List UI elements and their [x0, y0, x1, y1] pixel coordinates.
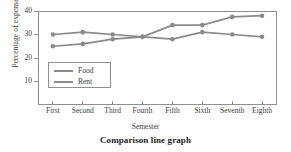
- y-tick-mark: [34, 81, 38, 82]
- x-tick-mark: [202, 101, 203, 105]
- legend-entry: Food: [49, 65, 110, 76]
- x-tick-label: First: [46, 106, 60, 116]
- x-tick-label: Fourth: [133, 106, 153, 116]
- x-axis-title: Semester: [0, 122, 291, 131]
- legend-label: Rent: [78, 77, 92, 86]
- y-tick-mark: [34, 34, 38, 35]
- legend: FoodRent: [48, 62, 111, 88]
- y-tick-label: 40: [14, 6, 32, 16]
- x-tick-label: Third: [104, 106, 121, 116]
- legend-swatch-icon: [54, 70, 73, 72]
- x-tick-mark: [232, 101, 233, 105]
- x-tick-mark: [142, 101, 143, 105]
- legend-entry: Rent: [49, 76, 110, 87]
- x-tick-label: Fifth: [165, 106, 180, 116]
- y-tick-label: 10: [14, 76, 32, 86]
- x-tick-label: Sixth: [194, 106, 210, 116]
- x-tick-mark: [82, 101, 83, 105]
- legend-label: Food: [78, 66, 93, 75]
- y-tick-mark: [34, 58, 38, 59]
- x-tick-mark: [52, 101, 53, 105]
- y-tick-mark: [34, 11, 38, 12]
- legend-swatch-icon: [54, 81, 73, 83]
- x-tick-mark: [112, 101, 113, 105]
- y-tick-label: 30: [14, 29, 32, 39]
- figure-caption: Comparison line graph: [0, 135, 291, 145]
- x-tick-mark: [172, 101, 173, 105]
- x-tick-label: Second: [72, 106, 94, 116]
- y-tick-label: 20: [14, 53, 32, 63]
- x-tick-mark: [262, 101, 263, 105]
- x-tick-label: Eighth: [252, 106, 272, 116]
- x-tick-label: Seventh: [220, 106, 244, 116]
- comparison-line-graph-figure: Percentage of expenses 40302010 FirstSec…: [0, 0, 291, 152]
- plot-area: [38, 11, 277, 105]
